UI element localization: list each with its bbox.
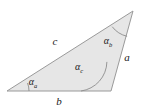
triangle-diagram-canvas: c a b αa αb αc xyxy=(0,0,141,110)
side-label-c: c xyxy=(53,35,58,47)
side-label-b: b xyxy=(56,95,62,107)
angle-subscript-a: a xyxy=(34,82,37,89)
triangle-figure: c a b αa αb αc xyxy=(0,0,141,110)
triangle-shape xyxy=(7,11,133,91)
angle-subscript-c: c xyxy=(80,67,83,74)
side-label-a: a xyxy=(124,51,130,63)
